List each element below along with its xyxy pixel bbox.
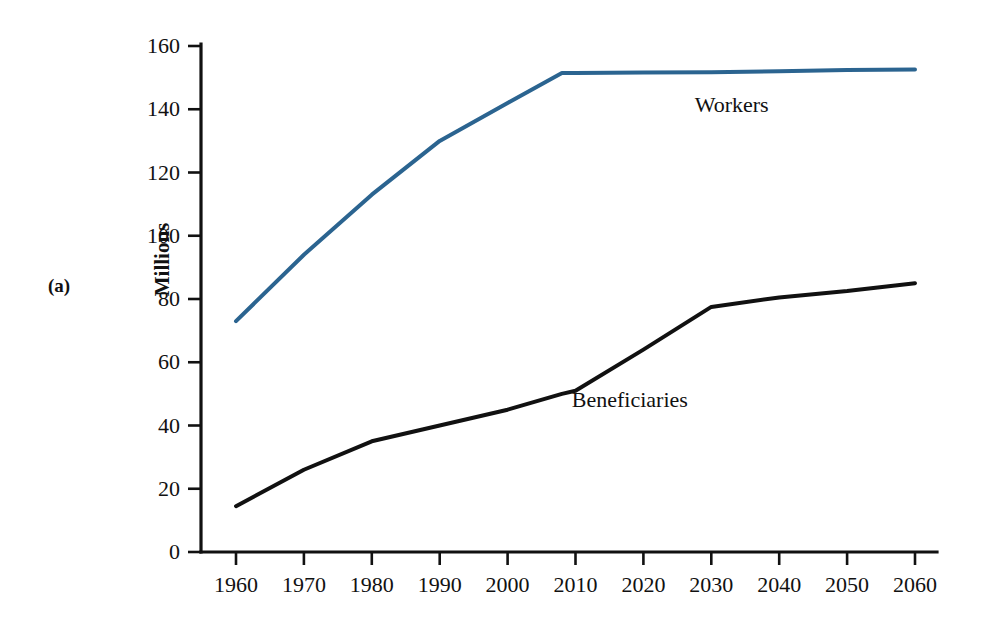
x-tick-label: 2040 <box>757 572 801 597</box>
y-tick-label: 100 <box>147 223 180 248</box>
y-tick-label: 0 <box>169 539 180 564</box>
y-tick-label: 140 <box>147 96 180 121</box>
x-tick-label: 2000 <box>486 572 530 597</box>
series-annotations: WorkersBeneficiaries <box>572 92 769 411</box>
y-tick-label: 40 <box>158 413 180 438</box>
x-axis-ticks: 1960197019801990200020102020203020402050… <box>214 552 937 597</box>
series-label-beneficiaries: Beneficiaries <box>572 387 688 412</box>
y-tick-label: 60 <box>158 349 180 374</box>
y-tick-label: 80 <box>158 286 180 311</box>
x-tick-label: 1980 <box>350 572 394 597</box>
x-tick-label: 1990 <box>418 572 462 597</box>
x-tick-label: 2010 <box>554 572 598 597</box>
x-tick-label: 2050 <box>825 572 869 597</box>
x-tick-label: 2030 <box>689 572 733 597</box>
y-tick-label: 120 <box>147 160 180 185</box>
y-tick-label: 20 <box>158 476 180 501</box>
x-tick-label: 1970 <box>282 572 326 597</box>
y-axis-ticks: 020406080100120140160 <box>147 33 201 564</box>
figure-panel-a: (a) Millions 020406080100120140160 19601… <box>0 0 983 635</box>
series-lines <box>236 69 915 506</box>
series-line-workers <box>236 69 915 321</box>
series-label-workers: Workers <box>695 92 769 117</box>
x-tick-label: 1960 <box>214 572 258 597</box>
y-tick-label: 160 <box>147 33 180 58</box>
x-tick-label: 2060 <box>893 572 937 597</box>
line-chart: 020406080100120140160 196019701980199020… <box>0 0 983 635</box>
x-tick-label: 2020 <box>621 572 665 597</box>
